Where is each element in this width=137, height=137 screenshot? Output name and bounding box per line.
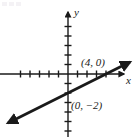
coordinate-plane-figure: y x (4, 0) (0, −2): [0, 0, 137, 137]
x-axis-label: x: [125, 74, 131, 86]
y-axis-label: y: [73, 6, 79, 18]
graph-canvas: y x (4, 0) (0, −2): [0, 0, 137, 137]
point-label-4-0: (4, 0): [81, 56, 105, 69]
plotted-line-group: [8, 62, 130, 123]
point-label-0-minus2: (0, −2): [71, 99, 103, 112]
plotted-line: [8, 62, 130, 123]
